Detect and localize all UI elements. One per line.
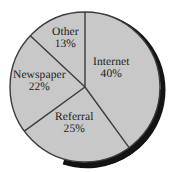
slice-label-newspaper-value: 22% bbox=[13, 82, 66, 94]
slice-label-referral: Referral 25% bbox=[55, 112, 93, 136]
slice-label-other-value: 13% bbox=[52, 39, 79, 51]
slice-label-other: Other 13% bbox=[52, 27, 79, 51]
slice-label-internet-value: 40% bbox=[93, 69, 130, 81]
slice-label-internet: Internet 40% bbox=[93, 57, 130, 81]
slice-label-referral-value: 25% bbox=[55, 124, 93, 136]
pie-chart: Internet 40% Referral 25% Newspaper 22% … bbox=[0, 0, 171, 172]
slice-label-newspaper: Newspaper 22% bbox=[13, 70, 66, 94]
